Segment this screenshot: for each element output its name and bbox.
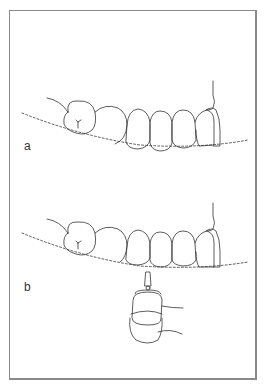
panel-label-b: b: [24, 280, 31, 294]
mallet-instrument: [130, 272, 183, 343]
panel-a-teeth: [22, 81, 248, 151]
panel-label-a: a: [24, 139, 31, 153]
panel-b-teeth: [22, 203, 248, 267]
dental-illustration: [0, 0, 265, 385]
